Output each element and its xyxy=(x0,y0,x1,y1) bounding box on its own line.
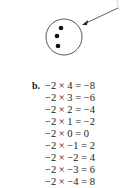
equation-5: −2 × 0 = 0 xyxy=(45,128,89,140)
equation-6: −2 × −1 = 2 xyxy=(45,140,95,152)
arrow-icon xyxy=(82,0,119,25)
circle-outline xyxy=(46,19,82,55)
equation-1: −2 × 4 = −8 xyxy=(45,80,95,92)
equation-9: −2 × −4 = 8 xyxy=(45,176,95,188)
equation-3: −2 × 2 = −4 xyxy=(45,104,95,116)
dot-2 xyxy=(55,34,60,39)
equation-4: −2 × 1 = −2 xyxy=(45,116,95,128)
part-b-label: b. xyxy=(32,80,40,91)
equation-7: −2 × −2 = 4 xyxy=(45,152,95,164)
dot-3 xyxy=(56,44,61,49)
equation-2: −2 × 3 = −6 xyxy=(45,92,95,104)
equation-8: −2 × −3 = 6 xyxy=(45,164,95,176)
dot-1 xyxy=(59,26,64,31)
circle-with-dots-figure xyxy=(0,0,121,72)
